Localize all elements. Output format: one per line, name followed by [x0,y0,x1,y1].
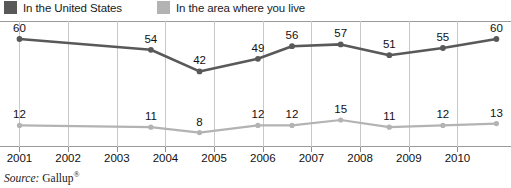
data-point-marker [17,123,22,128]
x-tick-label-2005: 2005 [201,152,227,164]
data-point-marker [197,69,203,75]
data-label: 12 [252,108,265,120]
x-tick-label-2001: 2001 [7,152,33,164]
data-point-marker [387,125,392,130]
data-point-marker [494,121,499,126]
x-tick-label-2007: 2007 [299,152,325,164]
data-point-marker [148,125,153,130]
data-label: 8 [196,116,202,128]
legend-label-us: In the United States [23,2,122,14]
data-point-marker [289,43,295,49]
data-label: 15 [334,103,347,115]
data-label: 13 [490,107,503,119]
source-name: Gallup [42,172,73,184]
data-label: 11 [145,110,157,122]
source-prefix: Source: [4,172,39,184]
data-point-marker [338,117,343,122]
data-label: 42 [193,54,206,66]
data-label: 49 [252,42,265,54]
data-label: 56 [286,29,299,41]
data-point-marker [494,36,500,42]
data-label: 60 [13,22,26,34]
data-label: 57 [334,27,347,39]
data-label: 51 [383,38,396,50]
x-tick-label-2009: 2009 [396,152,422,164]
data-point-marker [255,56,261,62]
crime-perception-line-chart: In the United States In the area where y… [0,0,511,188]
legend-swatch-icon-local [157,1,170,14]
x-tick-label-2004: 2004 [153,152,179,164]
data-point-marker [17,36,23,42]
data-label: 54 [144,33,157,45]
data-point-marker [440,45,446,51]
registered-mark-icon: ® [74,170,80,179]
plot-area: 60544249565751556012118121215111213 [0,21,511,147]
data-point-marker [386,52,392,58]
data-label: 60 [490,22,503,34]
data-label: 11 [383,110,395,122]
data-point-marker [289,123,294,128]
legend-item-in-the-united-states: In the United States [4,1,122,14]
data-point-marker [148,47,154,53]
x-axis: 2001200220032004200520062007200820092010 [0,147,511,167]
series-layer [0,21,511,147]
source-note: Source: Gallup® [4,170,80,184]
x-tick-label-2006: 2006 [250,152,276,164]
data-point-marker [338,42,344,48]
data-point-marker [197,130,202,135]
chart-legend: In the United States In the area where y… [0,0,511,20]
x-tick-label-2010: 2010 [445,152,471,164]
x-tick-label-2008: 2008 [347,152,373,164]
data-point-marker [255,123,260,128]
data-label: 12 [13,108,26,120]
data-point-marker [440,123,445,128]
data-label: 55 [436,31,449,43]
data-label: 12 [286,108,299,120]
legend-label-local: In the area where you live [176,2,305,14]
data-label: 12 [436,108,449,120]
x-tick-label-2002: 2002 [55,152,81,164]
legend-item-in-the-area-where-you-live: In the area where you live [157,1,305,14]
x-tick-label-2003: 2003 [104,152,130,164]
legend-swatch-icon-us [4,1,17,14]
